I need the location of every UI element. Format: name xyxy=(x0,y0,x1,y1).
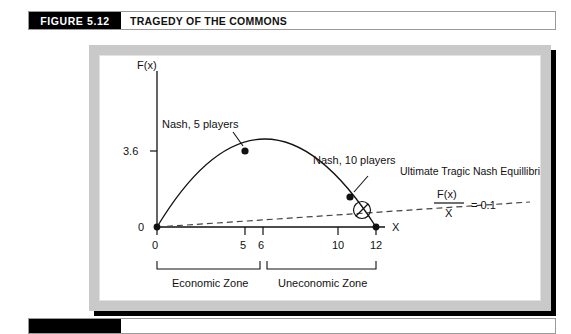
x-tick-label-12: 12 xyxy=(370,239,382,251)
uneconomic-zone-bracket xyxy=(267,261,376,269)
x-axis-label: X xyxy=(392,221,400,233)
x-tick-label-6: 6 xyxy=(258,239,264,251)
uneconomic-zone-label: Uneconomic Zone xyxy=(278,277,367,289)
economic-zone-bracket xyxy=(157,261,260,269)
curve-end-point xyxy=(373,224,380,231)
nash-10-players-label: Nash, 10 players xyxy=(313,154,396,166)
economic-zone-label: Economic Zone xyxy=(172,277,248,289)
x-tick-label-0: 0 xyxy=(152,239,158,251)
figure-number-badge: FIGURE 5.12 xyxy=(29,12,121,29)
figure-title: TRAGEDY OF THE COMMONS xyxy=(121,12,287,29)
next-figure-header xyxy=(28,318,556,334)
origin-point xyxy=(154,224,161,231)
next-figure-number-badge xyxy=(29,319,121,333)
equation-denominator: X xyxy=(445,207,453,219)
x-tick-label-5: 5 xyxy=(240,239,246,251)
figure-panel-frame: F(x) X 3.6 0 0 5 6 10 12 xyxy=(89,45,551,311)
x-tick-label-10: 10 xyxy=(332,239,344,251)
figure-header: FIGURE 5.12 TRAGEDY OF THE COMMONS xyxy=(28,11,556,30)
nash-5-players-label: Nash, 5 players xyxy=(162,118,239,130)
ultimate-tragic-nash-label: Ultimate Tragic Nash Equillibrium xyxy=(400,165,540,177)
nash-10-leader-line xyxy=(354,176,368,192)
production-curve xyxy=(157,139,376,227)
nash-10-players-point xyxy=(346,193,353,200)
y-tick-label-0: 0 xyxy=(138,221,144,233)
y-axis-label: F(x) xyxy=(137,59,157,71)
equation-numerator: F(x) xyxy=(437,188,457,200)
nash-5-players-point xyxy=(241,147,248,154)
equation-value: = 0.1 xyxy=(471,199,496,211)
y-tick-label-3-6: 3.6 xyxy=(123,145,138,157)
tragedy-of-commons-chart: F(x) X 3.6 0 0 5 6 10 12 xyxy=(100,56,540,300)
chart-canvas: F(x) X 3.6 0 0 5 6 10 12 xyxy=(99,55,541,301)
